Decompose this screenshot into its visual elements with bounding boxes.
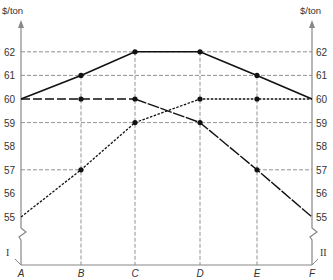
data-point [132, 49, 137, 54]
price-chart: 62626161606059595858575756565555$/ton$/t… [0, 0, 333, 280]
right-roman-label: II [320, 247, 327, 258]
left-tick-59: 59 [4, 118, 16, 129]
data-point [132, 96, 137, 101]
series-rising-dotted [21, 99, 312, 217]
x-label-F: F [309, 268, 316, 279]
left-tick-58: 58 [4, 141, 16, 152]
left-tick-57: 57 [4, 165, 16, 176]
data-point [197, 49, 202, 54]
right-unit-label: $/ton [300, 5, 321, 16]
left-unit-label: $/ton [2, 5, 23, 16]
data-point [197, 120, 202, 125]
left-tick-60: 60 [4, 94, 16, 105]
right-tick-56: 56 [316, 188, 328, 199]
left-tick-61: 61 [4, 70, 16, 81]
series-lines [21, 49, 312, 217]
right-tick-60: 60 [316, 94, 328, 105]
data-point [197, 96, 202, 101]
right-tick-59: 59 [316, 118, 328, 129]
axis-labels: 62626161606059595858575756565555$/ton$/t… [2, 5, 328, 279]
data-point [78, 167, 83, 172]
left-roman-label: I [6, 247, 9, 258]
data-point [78, 96, 83, 101]
right-corner-tick [312, 259, 318, 265]
data-point [132, 120, 137, 125]
axes [15, 20, 318, 265]
right-tick-61: 61 [316, 70, 328, 81]
reference-lines [21, 52, 312, 265]
right-tick-58: 58 [316, 141, 328, 152]
left-corner-tick [15, 259, 21, 265]
right-tick-55: 55 [316, 212, 328, 223]
left-tick-56: 56 [4, 188, 16, 199]
x-label-E: E [254, 268, 261, 279]
x-label-B: B [78, 268, 85, 279]
data-point [254, 73, 259, 78]
data-point [78, 73, 83, 78]
x-label-D: D [196, 268, 203, 279]
x-label-C: C [131, 268, 139, 279]
left-tick-62: 62 [4, 47, 16, 58]
right-tick-57: 57 [316, 165, 328, 176]
right-axis-arrow-icon [309, 20, 315, 28]
data-point [254, 167, 259, 172]
left-axis-arrow-icon [18, 20, 24, 28]
left-tick-55: 55 [4, 212, 16, 223]
right-tick-62: 62 [316, 47, 328, 58]
x-label-A: A [17, 268, 25, 279]
series-falling-solid [135, 99, 312, 217]
left-axis [19, 22, 26, 265]
data-point [254, 96, 259, 101]
